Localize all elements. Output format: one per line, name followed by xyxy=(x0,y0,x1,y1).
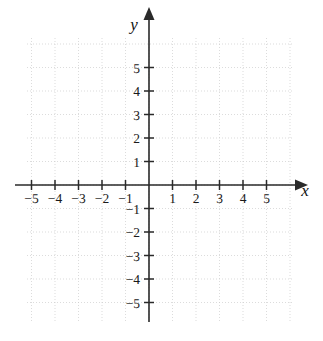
coordinate-plane-svg: −5−4−3−2−11234554321−1−2−3−4−5 x y xyxy=(0,0,323,341)
x-axis-label: x xyxy=(300,181,309,200)
x-tick-label: 3 xyxy=(216,191,223,206)
coordinate-plane-figure: −5−4−3−2−11234554321−1−2−3−4−5 x y xyxy=(0,0,323,341)
y-tick-label: 4 xyxy=(133,84,140,99)
y-axis-arrow-icon xyxy=(144,7,155,20)
y-tick-label: 2 xyxy=(133,131,140,146)
y-tick-label: 1 xyxy=(133,155,140,170)
y-tick-label: −1 xyxy=(126,202,140,217)
x-tick-label: 2 xyxy=(193,191,200,206)
y-axis-label: y xyxy=(128,15,138,34)
x-tick-label: −4 xyxy=(48,191,63,206)
x-tick-label: −2 xyxy=(95,191,109,206)
x-tick-label: −3 xyxy=(71,191,86,206)
x-tick-label: 5 xyxy=(263,191,270,206)
grid-layer xyxy=(27,38,292,323)
axis-layer xyxy=(15,7,308,322)
y-tick-label: −3 xyxy=(126,249,141,264)
x-tick-label: 4 xyxy=(240,191,247,206)
y-tick-label: −4 xyxy=(126,272,141,287)
x-tick-label: −5 xyxy=(24,191,39,206)
y-tick-label: 3 xyxy=(133,108,140,123)
y-tick-label: 5 xyxy=(133,61,140,76)
x-tick-label: 1 xyxy=(169,191,176,206)
y-tick-label: −2 xyxy=(126,225,140,240)
y-tick-label: −5 xyxy=(126,296,141,311)
